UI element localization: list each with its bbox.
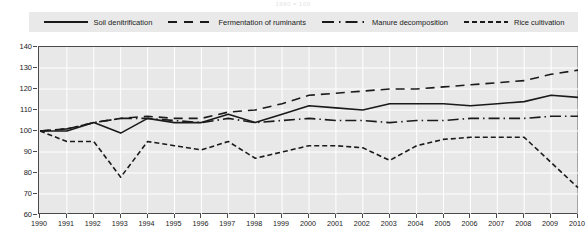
- x-tick-label: 2000: [300, 219, 316, 228]
- x-tick-mark: [523, 214, 524, 218]
- chart-header-note: 1990 = 100: [0, 1, 586, 7]
- chart-canvas: [39, 47, 579, 215]
- gridlines: [39, 47, 579, 215]
- y-tick-label: 80: [24, 168, 32, 177]
- dashed-line-icon: [167, 18, 213, 26]
- y-tick-mark: [33, 151, 37, 152]
- y-tick-label: 60: [24, 210, 32, 219]
- y-tick-mark: [33, 172, 37, 173]
- y-axis: 14013012011010090807060: [0, 40, 36, 220]
- legend-item-manure-decomposition[interactable]: Manure decomposition: [321, 18, 448, 27]
- legend-label: Rice cultivation: [514, 18, 564, 27]
- x-tick-mark: [416, 214, 417, 218]
- x-tick-mark: [120, 214, 121, 218]
- y-tick-label: 140: [19, 42, 32, 51]
- y-tick-mark: [33, 88, 37, 89]
- x-tick-label: 2006: [461, 219, 477, 228]
- x-tick-label: 1999: [273, 219, 289, 228]
- legend-item-soil-denitrification[interactable]: Soil denitrification: [43, 18, 153, 27]
- y-tick-mark: [33, 130, 37, 131]
- x-tick-label: 2008: [515, 219, 531, 228]
- x-tick-mark: [66, 214, 67, 218]
- x-tick-mark: [200, 214, 201, 218]
- x-tick-label: 2007: [488, 219, 504, 228]
- x-tick-label: 1993: [112, 219, 128, 228]
- y-tick-mark: [33, 67, 37, 68]
- x-tick-label: 2002: [354, 219, 370, 228]
- x-tick-mark: [362, 214, 363, 218]
- plot-area: [38, 46, 578, 214]
- x-tick-mark: [93, 214, 94, 218]
- legend-label: Manure decomposition: [372, 18, 448, 27]
- y-tick-label: 100: [19, 126, 32, 135]
- x-tick-label: 2009: [542, 219, 558, 228]
- y-tick-label: 90: [24, 147, 32, 156]
- x-tick-mark: [496, 214, 497, 218]
- x-tick-label: 1998: [246, 219, 262, 228]
- x-tick-label: 1995: [166, 219, 182, 228]
- x-tick-label: 2004: [408, 219, 424, 228]
- x-tick-label: 1991: [58, 219, 74, 228]
- x-tick-mark: [174, 214, 175, 218]
- x-tick-mark: [550, 214, 551, 218]
- x-tick-label: 1994: [139, 219, 155, 228]
- x-tick-mark: [335, 214, 336, 218]
- y-tick-mark: [33, 46, 37, 47]
- x-tick-mark: [254, 214, 255, 218]
- x-tick-mark: [281, 214, 282, 218]
- legend-item-fermentation-of-ruminants[interactable]: Fermentation of ruminants: [167, 18, 306, 27]
- x-tick-label: 2001: [327, 219, 343, 228]
- x-tick-mark: [147, 214, 148, 218]
- x-axis: 1990199119921993199419951996199719981999…: [38, 214, 579, 238]
- chart-page: 1990 = 100 Soil denitrification Fermenta…: [0, 0, 586, 238]
- x-tick-label: 2005: [435, 219, 451, 228]
- y-tick-label: 130: [19, 63, 32, 72]
- dash-dot-line-icon: [321, 18, 367, 26]
- y-tick-mark: [33, 193, 37, 194]
- legend-label: Soil denitrification: [94, 18, 153, 27]
- y-tick-mark: [33, 109, 37, 110]
- x-tick-label: 1997: [219, 219, 235, 228]
- fine-dashed-line-icon: [463, 18, 509, 26]
- legend-label: Fermentation of ruminants: [218, 18, 306, 27]
- y-tick-mark: [33, 214, 37, 215]
- x-tick-mark: [308, 214, 309, 218]
- solid-line-icon: [43, 18, 89, 26]
- x-tick-mark: [577, 214, 578, 218]
- x-tick-label: 2003: [381, 219, 397, 228]
- y-tick-label: 120: [19, 84, 32, 93]
- x-tick-mark: [39, 214, 40, 218]
- legend-item-rice-cultivation[interactable]: Rice cultivation: [463, 18, 564, 27]
- x-tick-label: 2010: [569, 219, 585, 228]
- x-tick-mark: [443, 214, 444, 218]
- chart-legend: Soil denitrification Fermentation of rum…: [29, 12, 578, 32]
- x-tick-label: 1990: [31, 219, 47, 228]
- y-tick-label: 70: [24, 189, 32, 198]
- x-tick-mark: [389, 214, 390, 218]
- x-tick-mark: [469, 214, 470, 218]
- x-tick-mark: [227, 214, 228, 218]
- y-tick-label: 110: [20, 105, 32, 114]
- x-tick-label: 1996: [192, 219, 208, 228]
- x-tick-label: 1992: [85, 219, 101, 228]
